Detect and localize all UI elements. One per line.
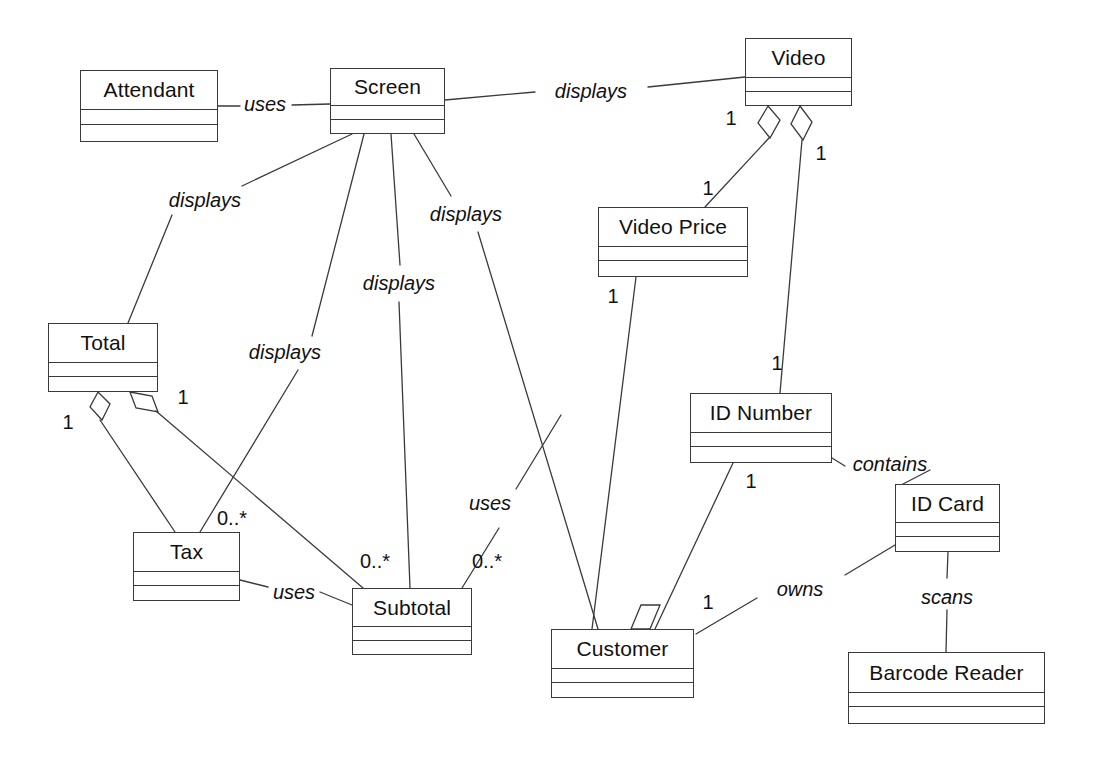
class-name-id-number: ID Number [691, 394, 831, 433]
association-label-displays-screen-tax: displays [249, 341, 321, 364]
class-operations-tax [134, 586, 239, 602]
class-box-barcode-reader[interactable]: Barcode Reader [848, 652, 1045, 724]
class-attributes-id-number [691, 433, 831, 447]
edge-total-tax [100, 420, 175, 532]
class-attributes-video-price [599, 247, 747, 261]
edge-screen-tax-upper [312, 134, 364, 336]
class-operations-attendant [81, 125, 217, 141]
class-box-id-number[interactable]: ID Number [690, 393, 832, 463]
class-operations-video-price [599, 261, 747, 277]
class-attributes-barcode-reader [849, 693, 1044, 707]
class-name-attendant: Attendant [81, 71, 217, 110]
edge-screen-subtotal-lower [399, 302, 410, 588]
class-box-subtotal[interactable]: Subtotal [352, 588, 472, 655]
class-operations-id-card [896, 537, 999, 553]
association-label-displays-screen-subtotal: displays [363, 272, 435, 295]
class-box-video-price[interactable]: Video Price [598, 207, 748, 277]
class-attributes-subtotal [353, 627, 471, 641]
class-name-video-price: Video Price [599, 208, 747, 247]
class-box-attendant[interactable]: Attendant [80, 70, 218, 142]
aggregation-diamond-video-idnumber [791, 106, 812, 140]
edge-screen-total-lower [128, 215, 172, 323]
aggregation-diamond-video-videoprice [758, 106, 780, 138]
edge-tax-subtotal-left [240, 580, 268, 587]
association-label-displays-screen-customer: displays [430, 203, 502, 226]
class-name-video: Video [746, 39, 851, 78]
class-attributes-total [49, 363, 157, 377]
class-name-customer: Customer [552, 630, 693, 669]
class-name-tax: Tax [134, 533, 239, 572]
edge-subtotal-uses-upper [516, 415, 561, 489]
multiplicity-idnumber-customer-source: 1 [745, 470, 756, 493]
class-box-id-card[interactable]: ID Card [895, 484, 1000, 552]
class-box-tax[interactable]: Tax [133, 532, 240, 601]
class-name-barcode-reader: Barcode Reader [849, 653, 1044, 693]
multiplicity-idnumber-target: 1 [771, 352, 782, 375]
edge-screen-video-right [648, 77, 745, 87]
association-label-contains-idnumber-idcard: contains [853, 453, 928, 476]
edge-screen-video-left [445, 92, 535, 100]
multiplicity-subtotal-target-left: 0..* [360, 550, 390, 573]
edge-video-videoprice [705, 138, 769, 207]
edge-screen-customer-upper [414, 134, 451, 196]
multiplicity-tax-target: 0..* [217, 507, 247, 530]
association-label-displays-screen-video: displays [555, 80, 627, 103]
class-attributes-tax [134, 572, 239, 586]
class-operations-total [49, 377, 157, 393]
class-attributes-screen [331, 106, 444, 120]
edge-tax-subtotal-right [320, 592, 352, 605]
multiplicity-video-videoprice-source: 1 [725, 107, 736, 130]
edge-idcard-barcode-lower [946, 610, 947, 652]
association-label-displays-screen-total: displays [169, 189, 241, 212]
aggregation-diamond-total-tax [90, 392, 110, 420]
class-operations-barcode-reader [849, 707, 1044, 723]
class-name-screen: Screen [331, 69, 444, 106]
edge-screen-tax-lower [200, 370, 298, 532]
class-attributes-customer [552, 669, 693, 683]
edge-video-idnumber [780, 140, 802, 393]
multiplicity-customer-idcard-target: 1 [702, 591, 713, 614]
aggregation-diamond-total-subtotal [130, 392, 158, 412]
association-label-owns-idcard-customer: owns [777, 578, 824, 601]
multiplicity-video-idnumber-source: 1 [815, 142, 826, 165]
uml-diagram-canvas: Attendant Screen Video Video Price Total… [0, 0, 1095, 769]
association-label-uses-subtotal: uses [469, 492, 511, 515]
class-attributes-id-card [896, 523, 999, 537]
multiplicity-videoprice-target: 1 [702, 177, 713, 200]
edge-videoprice-customer [592, 277, 636, 629]
class-name-id-card: ID Card [896, 485, 999, 523]
association-label-uses-tax-subtotal: uses [273, 581, 315, 604]
aggregation-diamond-customer [631, 605, 660, 629]
multiplicity-total-subtotal-source: 1 [177, 386, 188, 409]
class-box-video[interactable]: Video [745, 38, 852, 106]
class-operations-id-number [691, 447, 831, 463]
class-attributes-attendant [81, 110, 217, 125]
class-operations-customer [552, 683, 693, 699]
class-operations-video [746, 92, 851, 108]
class-name-subtotal: Subtotal [353, 589, 471, 627]
edge-idcard-barcode-upper [947, 552, 948, 578]
edge-attendant-screen-right [292, 104, 330, 105]
edge-idcard-customer-right [845, 545, 895, 575]
class-box-total[interactable]: Total [48, 323, 158, 392]
multiplicity-subtotal-target-right: 0..* [472, 550, 502, 573]
edge-screen-subtotal-upper [391, 134, 400, 265]
edge-idnumber-customer [655, 463, 733, 629]
class-box-customer[interactable]: Customer [551, 629, 694, 698]
class-attributes-video [746, 78, 851, 92]
class-box-screen[interactable]: Screen [330, 68, 445, 134]
multiplicity-videoprice-customer-source: 1 [607, 285, 618, 308]
class-operations-screen [331, 120, 444, 136]
edge-idnumber-idcard-left [832, 458, 845, 466]
class-name-total: Total [49, 324, 157, 363]
association-label-scans-idcard-barcode: scans [921, 586, 973, 609]
multiplicity-total-tax-source: 1 [62, 411, 73, 434]
edge-screen-total-upper [242, 134, 352, 186]
association-label-uses-attendant-screen: uses [244, 93, 286, 116]
class-operations-subtotal [353, 641, 471, 657]
